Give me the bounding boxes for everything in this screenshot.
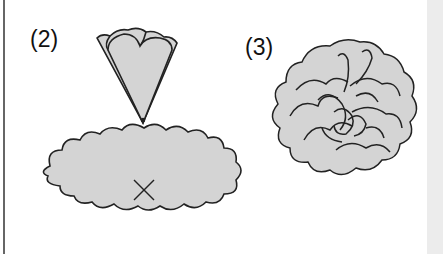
- finished-flower: [272, 40, 416, 175]
- folded-cone: [97, 28, 177, 123]
- scalloped-oval: [43, 124, 241, 210]
- diagram-canvas: [0, 0, 443, 254]
